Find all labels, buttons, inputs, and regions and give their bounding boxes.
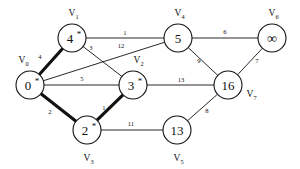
node-label-v7: V	[247, 89, 254, 99]
edge-v0-v3	[41, 94, 76, 122]
edge-weight-v6-v7: 7	[255, 57, 259, 64]
node-finalized-marker-v2: *	[138, 76, 143, 86]
graph-diagram: 0*V04*V13*V22*V35V413V5∞V616V7 452121311…	[0, 0, 300, 169]
edge-weight-v5-v7: 8	[205, 107, 209, 114]
edge-weight-v1-v4: 1	[123, 29, 126, 36]
node-v5[interactable]: 13V5	[163, 116, 191, 165]
edge-v4-v7	[188, 48, 218, 76]
node-v2[interactable]: 3*V2	[119, 55, 147, 99]
edge-weight-v4-v7: 9	[197, 57, 201, 64]
node-v0[interactable]: 0*V0	[16, 55, 44, 99]
graph-canvas: 0*V04*V13*V22*V35V413V5∞V616V7 452121311…	[0, 0, 300, 169]
node-value-v5: 13	[171, 123, 184, 138]
edge-v1-v2	[83, 47, 122, 77]
edge-v6-v7	[238, 48, 263, 75]
node-label-subscript-v2: 2	[141, 60, 144, 67]
edge-weight-v0-v3: 2	[48, 108, 51, 115]
node-finalized-marker-v1: *	[77, 29, 82, 39]
node-label-v1: V	[69, 8, 76, 18]
edge-weight-v2-v7: 13	[178, 76, 185, 83]
edge-weight-v0-v4: 12	[118, 42, 125, 49]
edge-weight-v0-v1: 4	[38, 53, 42, 60]
node-v3[interactable]: 2*V3	[73, 116, 101, 165]
node-value-v6: ∞	[267, 31, 277, 46]
node-value-v3: 2	[82, 123, 89, 138]
node-v6[interactable]: ∞V6	[258, 8, 286, 52]
node-label-subscript-v7: 7	[254, 94, 257, 101]
node-label-subscript-v5: 5	[181, 158, 184, 165]
node-label-v0: V	[19, 55, 26, 65]
node-label-subscript-v3: 3	[91, 158, 94, 165]
node-label-subscript-v4: 4	[182, 13, 186, 20]
edge-weight-v4-v6: 6	[223, 28, 227, 35]
node-label-v4: V	[175, 8, 182, 18]
node-value-v7: 16	[222, 78, 236, 93]
edge-weight-v2-v3: 1	[102, 104, 105, 111]
node-label-v3: V	[84, 153, 91, 163]
node-v1[interactable]: 4*V1	[58, 8, 86, 52]
node-value-v4: 5	[175, 31, 182, 46]
node-value-v1: 4	[67, 31, 74, 46]
node-v4[interactable]: 5V4	[164, 8, 192, 52]
node-layer: 0*V04*V13*V22*V35V413V5∞V616V7	[16, 8, 286, 165]
node-finalized-marker-v0: *	[35, 76, 40, 86]
edge-v2-v3	[97, 95, 123, 120]
node-label-v5: V	[174, 153, 181, 163]
edge-weight-v3-v5: 11	[128, 120, 134, 127]
edge-weight-v1-v2: 3	[89, 44, 93, 51]
node-v7[interactable]: 16V7	[214, 71, 257, 101]
node-value-v0: 0	[25, 78, 32, 93]
node-label-v6: V	[269, 8, 276, 18]
node-label-v2: V	[134, 55, 141, 65]
node-value-v2: 3	[128, 78, 135, 93]
edge-v0-v1	[39, 48, 62, 74]
node-label-subscript-v0: 0	[26, 60, 29, 67]
edge-weight-v0-v2: 5	[80, 75, 84, 82]
node-label-subscript-v1: 1	[76, 13, 79, 20]
edge-v5-v7	[187, 94, 217, 120]
node-label-subscript-v6: 6	[276, 13, 279, 20]
node-finalized-marker-v3: *	[92, 121, 97, 131]
